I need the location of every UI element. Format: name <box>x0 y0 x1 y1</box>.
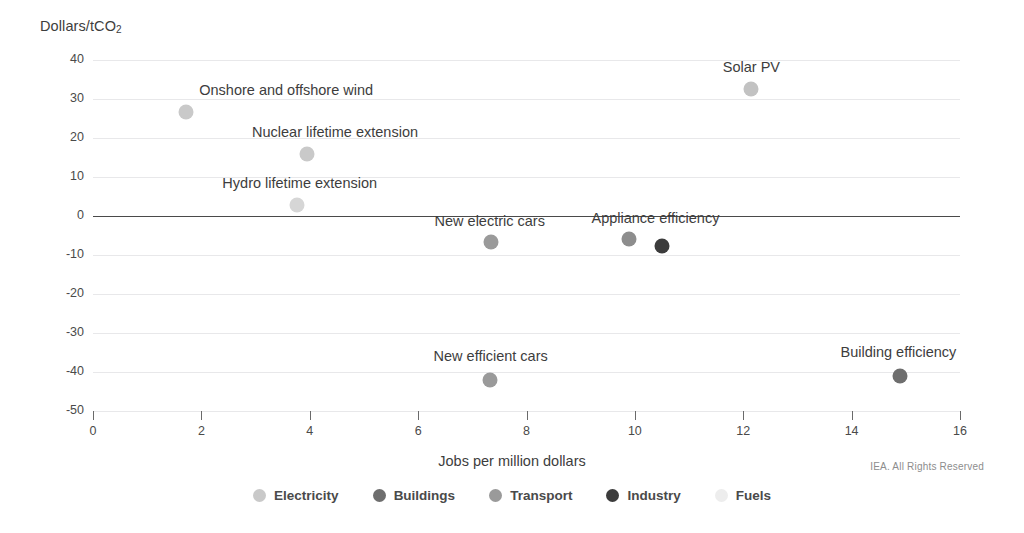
data-point-label: Appliance efficiency <box>592 210 720 226</box>
gridline <box>93 255 960 256</box>
legend-swatch-icon <box>253 489 266 502</box>
data-point[interactable] <box>179 104 194 119</box>
x-axis-tick-label: 4 <box>290 424 330 438</box>
data-point[interactable] <box>654 239 669 254</box>
copyright-notice: IEA. All Rights Reserved <box>870 461 984 472</box>
data-point[interactable] <box>300 146 315 161</box>
data-point-label: Nuclear lifetime extension <box>252 124 418 140</box>
x-axis-tick-label: 10 <box>615 424 655 438</box>
data-point-label: Onshore and offshore wind <box>199 82 373 98</box>
data-point-label: New electric cars <box>435 213 545 229</box>
data-point[interactable] <box>289 198 304 213</box>
x-axis-tick-mark <box>418 411 419 420</box>
gridline <box>93 333 960 334</box>
x-axis-tick-label: 8 <box>507 424 547 438</box>
legend-swatch-icon <box>489 489 502 502</box>
legend-label: Industry <box>627 488 680 503</box>
data-point-label: Hydro lifetime extension <box>222 175 377 191</box>
gridline <box>93 294 960 295</box>
x-axis-tick-mark <box>635 411 636 420</box>
legend-item-electricity[interactable]: Electricity <box>253 488 339 503</box>
x-axis-tick-label: 6 <box>398 424 438 438</box>
data-point[interactable] <box>482 372 497 387</box>
legend-label: Fuels <box>736 488 771 503</box>
legend-label: Transport <box>510 488 572 503</box>
y-axis-tick-label: 20 <box>42 130 84 144</box>
legend-swatch-icon <box>715 489 728 502</box>
legend-item-fuels[interactable]: Fuels <box>715 488 771 503</box>
y-axis-tick-label: 30 <box>42 91 84 105</box>
x-axis-tick-mark <box>960 411 961 420</box>
y-axis-tick-label: 10 <box>42 169 84 183</box>
plot-area: Onshore and offshore windNuclear lifetim… <box>93 60 960 411</box>
data-point[interactable] <box>483 235 498 250</box>
y-axis-title-text: Dollars/tCO <box>40 18 116 34</box>
legend-swatch-icon <box>606 489 619 502</box>
gridline <box>93 138 960 139</box>
legend-label: Electricity <box>274 488 339 503</box>
y-axis-tick-label: 0 <box>42 208 84 222</box>
x-axis-tick-label: 12 <box>723 424 763 438</box>
data-point-label: New efficient cars <box>434 348 548 364</box>
data-point-label: Solar PV <box>723 59 780 75</box>
gridline <box>93 99 960 100</box>
legend-item-buildings[interactable]: Buildings <box>373 488 456 503</box>
x-axis-tick-label: 2 <box>181 424 221 438</box>
y-axis-title: Dollars/tCO2 <box>40 18 122 35</box>
gridline <box>93 60 960 61</box>
x-axis-tick-label: 14 <box>832 424 872 438</box>
data-point[interactable] <box>744 81 759 96</box>
x-axis-tick-mark <box>743 411 744 420</box>
legend-item-transport[interactable]: Transport <box>489 488 572 503</box>
x-axis-tick-mark <box>201 411 202 420</box>
y-axis-tick-label: -40 <box>42 364 84 378</box>
data-point[interactable] <box>893 368 908 383</box>
legend-item-industry[interactable]: Industry <box>606 488 680 503</box>
chart-legend: ElectricityBuildingsTransportIndustryFue… <box>0 488 1024 503</box>
y-axis-tick-label: 40 <box>42 52 84 66</box>
x-axis-tick-mark <box>310 411 311 420</box>
y-axis-tick-label: -20 <box>42 286 84 300</box>
data-point-label: Building efficiency <box>840 344 956 360</box>
x-axis-tick-mark <box>93 411 94 420</box>
x-axis-tick-label: 0 <box>73 424 113 438</box>
gridline <box>93 372 960 373</box>
x-axis-tick-mark <box>852 411 853 420</box>
data-point[interactable] <box>622 232 637 247</box>
x-axis-tick-label: 16 <box>940 424 980 438</box>
chart-container: Dollars/tCO2 Onshore and offshore windNu… <box>0 0 1024 533</box>
legend-swatch-icon <box>373 489 386 502</box>
legend-label: Buildings <box>394 488 456 503</box>
x-axis-tick-mark <box>527 411 528 420</box>
y-axis-tick-label: -50 <box>42 403 84 417</box>
y-axis-tick-label: -30 <box>42 325 84 339</box>
y-axis-tick-label: -10 <box>42 247 84 261</box>
y-axis-title-subscript: 2 <box>116 24 122 35</box>
